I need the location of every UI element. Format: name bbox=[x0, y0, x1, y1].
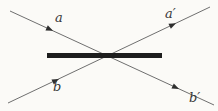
ray-diagram-canvas: a a′ b b′ bbox=[0, 0, 218, 111]
ray-label-b-prime: b′ bbox=[189, 90, 200, 105]
ray-diagram-figure: a a′ b b′ bbox=[0, 0, 218, 111]
ray-label-a-prime: a′ bbox=[165, 6, 176, 21]
barrier-bar bbox=[47, 53, 162, 58]
ray-label-a: a bbox=[55, 10, 63, 25]
ray-label-b: b bbox=[53, 79, 61, 94]
